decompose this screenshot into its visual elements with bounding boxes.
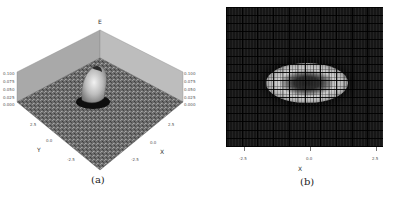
z-tick-right: 0.025: [184, 95, 195, 100]
z-tick-right: 0.075: [184, 79, 195, 84]
y-axis-label: Y: [37, 146, 41, 153]
y-tick: -2.5: [67, 157, 75, 162]
z-tick-right: 0.000: [184, 102, 195, 107]
z-tick-left: 0.025: [3, 95, 14, 100]
z-axis-label: E: [98, 18, 102, 25]
z-tick-right: 0.050: [184, 87, 195, 92]
panel-a-3d-surface: E 0.100 0.075 0.050 0.025 0.000 0.100 0.…: [0, 0, 200, 197]
x-tick: 2.5: [168, 122, 174, 127]
x-tick-mark: [310, 147, 311, 151]
x-tick: 0.0: [306, 156, 312, 161]
surface-plot: [0, 0, 200, 197]
caption-a: (a): [91, 174, 105, 185]
grid-overlay: [226, 7, 383, 147]
x-tick: -2.5: [131, 157, 139, 162]
x-tick: 2.5: [372, 156, 378, 161]
x-tick-mark: [244, 147, 245, 151]
x-tick-mark: [376, 147, 377, 151]
x-tick: 0.0: [150, 140, 156, 145]
z-tick-left: 0.000: [3, 102, 14, 107]
z-tick-left: 0.075: [3, 79, 14, 84]
x-axis-label: X: [298, 165, 302, 172]
z-tick-right: 0.100: [184, 71, 195, 76]
z-tick-left: 0.100: [3, 71, 14, 76]
x-axis-label: X: [160, 148, 164, 155]
x-tick: -2.5: [239, 156, 247, 161]
z-tick-left: 0.050: [3, 87, 14, 92]
y-tick: 0.0: [46, 138, 52, 143]
caption-b: (b): [300, 176, 314, 187]
panel-b-heatmap: -2.5 0.0 2.5 X (b): [200, 0, 393, 197]
y-tick: 2.5: [30, 122, 36, 127]
heatmap-image: [226, 7, 383, 147]
